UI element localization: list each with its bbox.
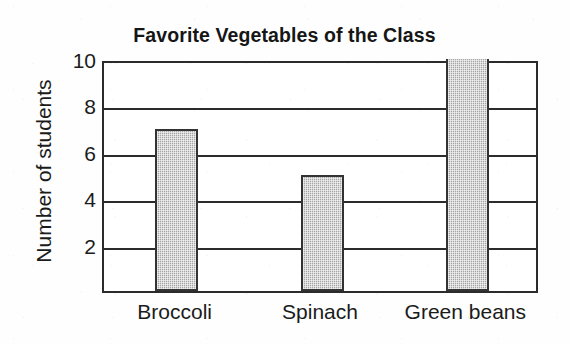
y-tick-label-8: 8 bbox=[50, 96, 96, 117]
y-tick-label-10: 10 bbox=[50, 50, 96, 71]
y-axis-tick-labels: 246810 bbox=[40, 61, 96, 293]
x-tick-label-broccoli: Broccoli bbox=[137, 300, 212, 324]
chart-title: Favorite Vegetables of the Class bbox=[0, 24, 569, 47]
y-tick-label-6: 6 bbox=[50, 143, 96, 164]
bar-broccoli bbox=[155, 129, 198, 291]
x-tick-label-green-beans: Green beans bbox=[405, 300, 526, 324]
bar-spinach bbox=[301, 175, 344, 291]
x-axis-tick-labels: BroccoliSpinachGreen beans bbox=[0, 300, 569, 340]
y-tick-label-2: 2 bbox=[50, 236, 96, 257]
bar-green-beans bbox=[446, 59, 489, 291]
x-tick-label-spinach: Spinach bbox=[282, 300, 358, 324]
bar-chart-figure: Favorite Vegetables of the Class Number … bbox=[0, 0, 569, 344]
y-tick-label-4: 4 bbox=[50, 189, 96, 210]
plot-area bbox=[102, 61, 538, 293]
